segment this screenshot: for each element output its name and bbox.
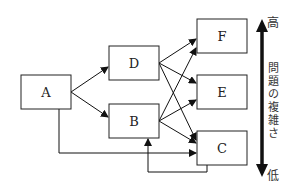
- axis-high-label: 高: [267, 15, 279, 30]
- problem-complexity-diagram: A D B F E C 高 低 問 題 の 複 雑 さ: [0, 0, 300, 194]
- edge-d-e: [159, 63, 196, 83]
- edge-a-d: [71, 67, 108, 92]
- svg-text:複: 複: [268, 100, 279, 114]
- node-c-label: C: [217, 141, 227, 156]
- node-f-label: F: [217, 29, 226, 44]
- svg-text:題: 題: [268, 75, 279, 88]
- svg-text:さ: さ: [268, 127, 279, 140]
- complexity-axis: 高 低 問 題 の 複 雑 さ: [256, 15, 279, 183]
- node-e-label: E: [217, 85, 227, 100]
- axis-title: 問 題 の 複 雑 さ: [268, 62, 279, 140]
- edge-d-c: [159, 63, 196, 140]
- svg-text:問: 問: [268, 62, 279, 75]
- node-a: A: [21, 75, 71, 109]
- node-f: F: [197, 19, 247, 53]
- edge-b-c: [159, 121, 196, 143]
- node-a-label: A: [40, 85, 51, 100]
- node-e: E: [197, 75, 247, 109]
- node-d: D: [109, 46, 159, 80]
- node-c: C: [197, 131, 247, 165]
- node-d-label: D: [129, 56, 139, 71]
- node-b: B: [109, 104, 159, 138]
- svg-text:の: の: [268, 88, 279, 101]
- edge-a-b: [71, 92, 108, 117]
- svg-text:雑: 雑: [268, 113, 279, 127]
- node-b-label: B: [129, 114, 139, 129]
- axis-low-label: 低: [267, 169, 279, 183]
